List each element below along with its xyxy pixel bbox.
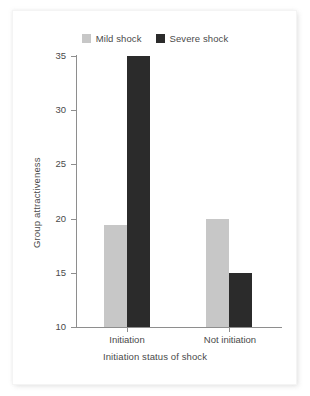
x-tick-initiation <box>127 327 128 332</box>
bar-initiation-severe-shock <box>127 56 150 327</box>
bar-not-initiation-severe-shock <box>229 273 252 327</box>
y-axis-title: Group attractiveness <box>31 157 42 248</box>
y-tick-20 <box>71 219 76 220</box>
x-cat-label-not-initiation: Not initiation <box>185 334 275 345</box>
figure-container: Mild shock Severe shock 35 30 25 20 15 1… <box>0 0 310 396</box>
y-axis-line <box>76 55 77 328</box>
y-tick-label-10: 10 <box>42 321 66 332</box>
plot-area: 35 30 25 20 15 10 Initiation Not initiat… <box>0 0 310 396</box>
y-tick-label-15: 15 <box>42 267 66 278</box>
y-tick-label-30: 30 <box>42 104 66 115</box>
y-tick-30 <box>71 110 76 111</box>
y-tick-label-35: 35 <box>42 50 66 61</box>
y-tick-35 <box>71 56 76 57</box>
y-tick-25 <box>71 164 76 165</box>
y-tick-15 <box>71 273 76 274</box>
x-axis-line <box>76 327 282 328</box>
bar-initiation-mild-shock <box>104 225 127 327</box>
x-axis-title: Initiation status of shock <box>0 351 310 362</box>
y-tick-label-25: 25 <box>42 158 66 169</box>
bar-not-initiation-mild-shock <box>206 219 229 327</box>
y-tick-10 <box>71 327 76 328</box>
x-cat-label-initiation: Initiation <box>87 334 167 345</box>
y-tick-label-20: 20 <box>42 213 66 224</box>
x-tick-not-initiation <box>229 327 230 332</box>
